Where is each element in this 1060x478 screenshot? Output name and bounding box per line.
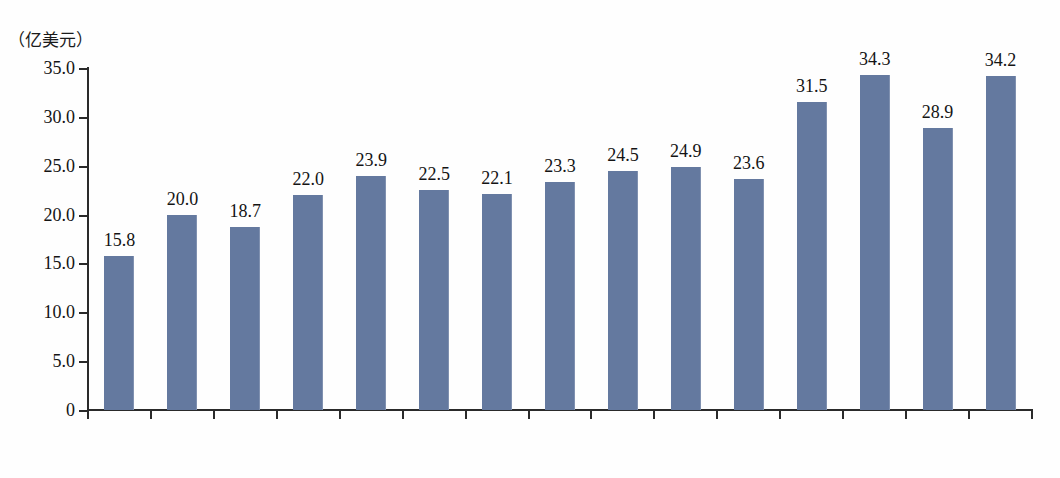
x-tick-mark xyxy=(87,410,89,419)
bar: 28.9 xyxy=(923,128,953,410)
bar-value-label: 20.0 xyxy=(167,189,199,210)
bar-value-label: 22.1 xyxy=(481,168,513,189)
bar: 22.1 xyxy=(482,194,512,410)
x-tick-mark xyxy=(653,410,655,419)
y-tick-mark xyxy=(79,361,88,363)
bar-value-label: 18.7 xyxy=(230,201,262,222)
x-tick-mark xyxy=(276,410,278,419)
y-tick-mark xyxy=(79,312,88,314)
bar: 31.5 xyxy=(797,102,827,410)
chart-page: （亿美元） 05.010.015.020.025.030.035.0 15.82… xyxy=(0,0,1060,478)
bar-value-label: 28.9 xyxy=(922,102,954,123)
x-tick-mark xyxy=(402,410,404,419)
bar: 15.8 xyxy=(104,256,134,410)
bar: 34.2 xyxy=(986,76,1016,410)
bar: 23.3 xyxy=(545,182,575,410)
y-tick-label: 20.0 xyxy=(44,204,76,225)
bar-value-label: 15.8 xyxy=(104,230,136,251)
bar: 20.0 xyxy=(167,215,197,410)
bar-value-label: 23.9 xyxy=(355,150,387,171)
bar-value-label: 34.3 xyxy=(859,49,891,70)
bar: 23.6 xyxy=(734,179,764,410)
y-tick-mark xyxy=(79,117,88,119)
y-tick-label: 25.0 xyxy=(44,155,76,176)
x-tick-mark xyxy=(150,410,152,419)
x-tick-mark xyxy=(842,410,844,419)
bar: 18.7 xyxy=(230,227,260,410)
y-tick-label: 15.0 xyxy=(44,253,76,274)
bar: 34.3 xyxy=(860,75,890,410)
bar-value-label: 22.0 xyxy=(293,169,325,190)
y-tick-label: 5.0 xyxy=(53,351,76,372)
y-tick-label: 30.0 xyxy=(44,106,76,127)
y-tick-label: 0 xyxy=(66,400,75,421)
x-tick-mark xyxy=(339,410,341,419)
y-tick-label: 35.0 xyxy=(44,58,76,79)
bar-value-label: 24.5 xyxy=(607,145,639,166)
x-tick-mark xyxy=(465,410,467,419)
x-tick-mark xyxy=(905,410,907,419)
bar-value-label: 34.2 xyxy=(985,50,1017,71)
bar: 22.0 xyxy=(293,195,323,410)
x-tick-mark xyxy=(716,410,718,419)
x-tick-mark xyxy=(213,410,215,419)
bar: 22.5 xyxy=(419,190,449,410)
bar: 24.9 xyxy=(671,167,701,410)
bar-value-label: 23.6 xyxy=(733,153,765,174)
y-tick-mark xyxy=(79,263,88,265)
y-tick-mark xyxy=(79,215,88,217)
bar-value-label: 22.5 xyxy=(418,164,450,185)
bar: 24.5 xyxy=(608,171,638,410)
y-tick-label: 10.0 xyxy=(44,302,76,323)
x-tick-mark xyxy=(528,410,530,419)
x-tick-mark xyxy=(779,410,781,419)
plot-area: 05.010.015.020.025.030.035.0 15.820.018.… xyxy=(88,68,1032,410)
y-tick-mark xyxy=(79,68,88,70)
x-tick-mark xyxy=(590,410,592,419)
bar-value-label: 24.9 xyxy=(670,141,702,162)
bar-value-label: 23.3 xyxy=(544,156,576,177)
bar: 23.9 xyxy=(356,176,386,410)
x-tick-mark xyxy=(968,410,970,419)
y-axis-unit-label: （亿美元） xyxy=(8,26,93,51)
bar-value-label: 31.5 xyxy=(796,76,828,97)
y-tick-mark xyxy=(79,166,88,168)
x-tick-mark xyxy=(1031,410,1033,419)
